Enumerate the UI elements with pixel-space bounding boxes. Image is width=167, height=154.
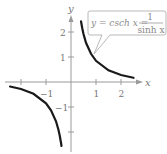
x-axis-label: x — [145, 77, 151, 88]
x-tick-label-neg1: −1 — [40, 89, 53, 99]
callout-fraction-denominator: sinh x — [137, 25, 164, 35]
y-tick-label-1: 1 — [60, 53, 66, 63]
x-tick-label-1: 1 — [94, 89, 100, 99]
y-tick-label-neg1: −1 — [55, 103, 68, 113]
callout-fraction-numerator: 1 — [147, 12, 153, 22]
x-axis-arrow-icon — [136, 80, 143, 85]
y-axis-label: y — [67, 3, 74, 14]
csch-curve-negative-branch — [10, 87, 62, 147]
y-axis-arrow-icon — [69, 15, 74, 22]
y-tick-label-2: 2 — [60, 28, 66, 38]
x-tick-label-2: 2 — [119, 89, 125, 99]
csch-graph: −1 1 2 2 1 −1 x y y = csch x = 1 sinh x — [0, 0, 167, 154]
